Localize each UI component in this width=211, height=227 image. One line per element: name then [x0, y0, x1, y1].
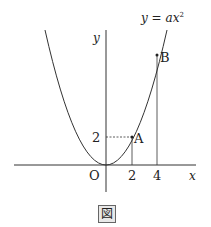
eq-equals: =: [148, 11, 166, 25]
point-a-label: A: [133, 131, 144, 146]
origin-label: O: [89, 168, 100, 183]
eq-a: a: [165, 11, 172, 25]
point-b: [156, 54, 159, 57]
eq-exp: 2: [179, 11, 183, 19]
x-tick-2: 2: [128, 168, 136, 183]
y-axis-label: y: [92, 31, 100, 45]
parabola-diagram: A B O 2 4 2 x y y = ax2: [0, 0, 211, 227]
x-tick-4: 4: [153, 168, 161, 183]
figure-caption: 図: [98, 205, 116, 223]
y-tick-2: 2: [92, 130, 100, 145]
curve-equation-label: y = ax2: [140, 11, 184, 25]
point-b-label: B: [160, 50, 170, 65]
x-axis-label: x: [189, 169, 196, 183]
